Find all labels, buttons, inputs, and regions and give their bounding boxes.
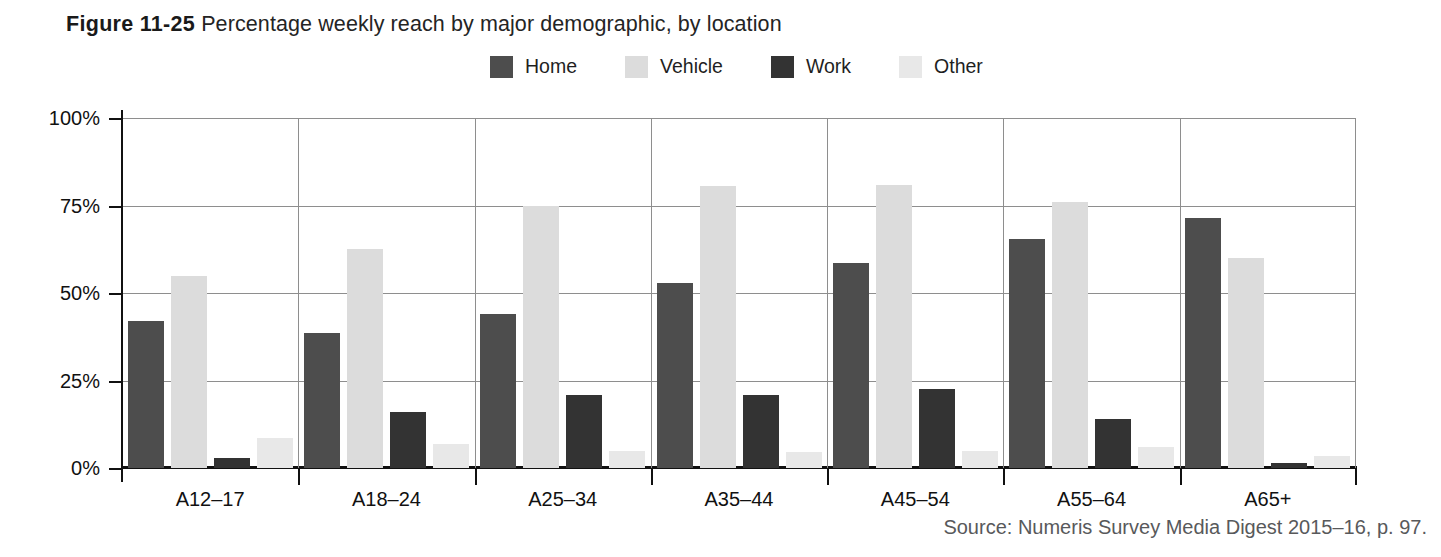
figure-number: Figure 11-25 bbox=[66, 12, 195, 36]
x-axis-tick-label: A65+ bbox=[1244, 488, 1291, 511]
bar[interactable] bbox=[1271, 463, 1307, 468]
x-axis-tick bbox=[827, 468, 829, 485]
x-axis-tick bbox=[1003, 468, 1005, 485]
bar[interactable] bbox=[962, 451, 998, 469]
bar[interactable] bbox=[1009, 239, 1045, 468]
plot-area bbox=[122, 118, 1356, 468]
bar[interactable] bbox=[833, 263, 869, 468]
bar[interactable] bbox=[128, 321, 164, 468]
legend-swatch-icon bbox=[771, 56, 794, 78]
bar[interactable] bbox=[1095, 419, 1131, 468]
x-axis-tick bbox=[1355, 468, 1357, 485]
gridline-vertical bbox=[651, 118, 652, 468]
y-axis-tick bbox=[109, 381, 123, 383]
gridline-horizontal bbox=[122, 206, 1356, 207]
x-axis-tick-label: A18–24 bbox=[352, 488, 421, 511]
bar[interactable] bbox=[480, 314, 516, 468]
y-axis-tick-label: 100% bbox=[49, 107, 100, 130]
gridline-vertical bbox=[475, 118, 476, 468]
y-axis-tick-label: 75% bbox=[60, 194, 100, 217]
y-axis-tick bbox=[109, 293, 123, 295]
x-axis-tick-label: A45–54 bbox=[881, 488, 950, 511]
source-note: Source: Numeris Survey Media Digest 2015… bbox=[943, 516, 1427, 539]
x-axis-tick-label: A35–44 bbox=[705, 488, 774, 511]
y-axis-tick bbox=[109, 468, 123, 470]
x-axis-tick-label: A25–34 bbox=[528, 488, 597, 511]
bar[interactable] bbox=[1228, 258, 1264, 468]
y-axis-tick-label: 25% bbox=[60, 369, 100, 392]
bar[interactable] bbox=[919, 389, 955, 468]
bar[interactable] bbox=[523, 206, 559, 469]
legend-swatch-icon bbox=[625, 56, 648, 78]
y-axis-tick bbox=[109, 206, 123, 208]
gridline-vertical bbox=[827, 118, 828, 468]
legend-item[interactable]: Home bbox=[490, 55, 577, 78]
bar[interactable] bbox=[433, 444, 469, 469]
gridline-vertical bbox=[1355, 118, 1356, 468]
chart-area: 0%25%50%75%100% A12–17A18–24A25–34A35–44… bbox=[0, 96, 1441, 516]
y-axis-tick-label: 0% bbox=[71, 457, 100, 480]
bar[interactable] bbox=[609, 451, 645, 469]
legend-swatch-icon bbox=[490, 56, 513, 78]
legend-label: Vehicle bbox=[660, 55, 723, 78]
legend-label: Home bbox=[525, 55, 577, 78]
bar[interactable] bbox=[1185, 218, 1221, 468]
figure-caption: Percentage weekly reach by major demogra… bbox=[201, 12, 782, 36]
y-axis-tick bbox=[109, 118, 123, 120]
x-axis-tick bbox=[651, 468, 653, 485]
gridline-vertical bbox=[1180, 118, 1181, 468]
x-axis-tick bbox=[298, 468, 300, 485]
x-axis-tick bbox=[1180, 468, 1182, 485]
bar[interactable] bbox=[347, 249, 383, 468]
bar[interactable] bbox=[1314, 456, 1350, 468]
bar[interactable] bbox=[1138, 447, 1174, 468]
bar[interactable] bbox=[566, 395, 602, 469]
bar[interactable] bbox=[257, 438, 293, 468]
bar[interactable] bbox=[390, 412, 426, 468]
x-axis-tick bbox=[475, 468, 477, 485]
legend-label: Work bbox=[806, 55, 851, 78]
bar[interactable] bbox=[171, 276, 207, 469]
gridline-horizontal bbox=[122, 118, 1356, 119]
chart-legend: HomeVehicleWorkOther bbox=[490, 55, 983, 78]
bar[interactable] bbox=[214, 458, 250, 469]
x-axis-tick-label: A55–64 bbox=[1057, 488, 1126, 511]
bar[interactable] bbox=[876, 185, 912, 469]
page-title: Figure 11-25 Percentage weekly reach by … bbox=[66, 12, 782, 37]
gridline-vertical bbox=[1003, 118, 1004, 468]
x-axis-tick-label: A12–17 bbox=[176, 488, 245, 511]
gridline-vertical bbox=[298, 118, 299, 468]
bar[interactable] bbox=[786, 452, 822, 468]
bar[interactable] bbox=[743, 395, 779, 469]
legend-swatch-icon bbox=[899, 56, 922, 78]
legend-item[interactable]: Vehicle bbox=[625, 55, 723, 78]
legend-label: Other bbox=[934, 55, 983, 78]
bar[interactable] bbox=[657, 283, 693, 469]
bar[interactable] bbox=[1052, 202, 1088, 468]
legend-item[interactable]: Other bbox=[899, 55, 983, 78]
bar[interactable] bbox=[700, 186, 736, 468]
gridline-horizontal bbox=[122, 293, 1356, 294]
y-axis-tick-label: 50% bbox=[60, 282, 100, 305]
bar[interactable] bbox=[304, 333, 340, 468]
legend-item[interactable]: Work bbox=[771, 55, 851, 78]
